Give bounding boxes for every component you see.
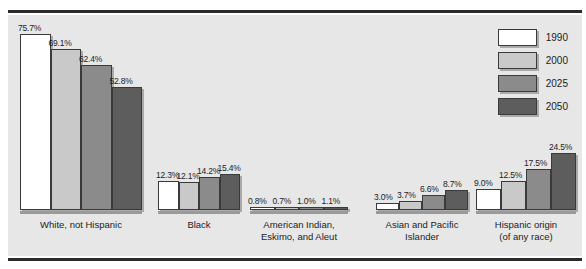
legend-item-1990[interactable]: 1990 — [498, 29, 568, 46]
legend-label: 2025 — [546, 78, 568, 89]
category-label-line: Islander — [386, 231, 459, 243]
bar-1990[interactable]: 9.0% — [476, 189, 501, 210]
bar-2050[interactable]: 1.1% — [324, 207, 349, 210]
bar-2025[interactable]: 6.6% — [422, 195, 445, 210]
bar-2000[interactable]: 3.7% — [399, 201, 422, 210]
bar-value-label: 3.7% — [397, 190, 416, 200]
legend-swatch — [498, 29, 537, 46]
category-label-line: (of any race) — [495, 231, 557, 243]
legend-label: 2000 — [546, 55, 568, 66]
category-label-line: American Indian, — [261, 219, 337, 231]
group-baseline — [158, 211, 240, 214]
bar-2025[interactable]: 17.5% — [526, 169, 551, 210]
bar-2050[interactable]: 24.5% — [551, 153, 576, 210]
bar-value-label: 62.4% — [79, 54, 102, 64]
bar-slot: 3.7% — [399, 34, 422, 210]
bar-group-bars: 0.8%0.7%1.0%1.1% — [250, 34, 348, 210]
legend-swatch — [498, 75, 537, 92]
chart-figure: 75.7%69.1%62.4%52.8%White, not Hispanic1… — [0, 0, 586, 269]
bar-2000[interactable]: 12.1% — [179, 182, 200, 210]
bar-slot: 0.7% — [275, 34, 300, 210]
legend-item-2025[interactable]: 2025 — [498, 75, 568, 92]
group-baseline — [250, 211, 348, 214]
bar-2025[interactable]: 14.2% — [199, 177, 220, 210]
bar-group: 75.7%69.1%62.4%52.8%White, not Hispanic — [20, 34, 142, 210]
category-label-line: Asian and Pacific — [386, 219, 459, 231]
group-baseline — [376, 211, 468, 214]
bar-slot: 15.4% — [220, 34, 241, 210]
bar-group: 12.3%12.1%14.2%15.4%Black — [158, 34, 240, 210]
bar-value-label: 3.0% — [374, 192, 393, 202]
legend-label: 2050 — [546, 101, 568, 112]
bar-slot: 69.1% — [51, 34, 82, 210]
bar-value-label: 8.7% — [443, 179, 462, 189]
bar-2050[interactable]: 8.7% — [445, 190, 468, 210]
chart-plot-panel: 75.7%69.1%62.4%52.8%White, not Hispanic1… — [8, 15, 582, 256]
legend-swatch — [498, 52, 537, 69]
category-label-line: Black — [187, 219, 210, 231]
bar-group-bars: 75.7%69.1%62.4%52.8% — [20, 34, 142, 210]
bar-slot: 14.2% — [199, 34, 220, 210]
bar-group: 3.0%3.7%6.6%8.7%Asian and PacificIslande… — [376, 34, 468, 210]
bar-2025[interactable]: 62.4% — [81, 65, 112, 210]
bar-value-label: 1.1% — [322, 196, 341, 206]
bar-slot: 12.1% — [179, 34, 200, 210]
bottom-rule — [8, 258, 582, 261]
bar-value-label: 1.0% — [297, 196, 316, 206]
bar-2000[interactable]: 69.1% — [51, 49, 82, 210]
bar-2050[interactable]: 15.4% — [220, 174, 241, 210]
group-baseline — [20, 211, 142, 214]
bar-value-label: 75.7% — [18, 23, 41, 33]
category-label: Hispanic origin(of any race) — [495, 219, 557, 243]
category-label-line: White, not Hispanic — [40, 219, 122, 231]
bar-slot: 1.1% — [324, 34, 349, 210]
bar-value-label: 6.6% — [420, 184, 439, 194]
category-label: White, not Hispanic — [40, 219, 122, 231]
bar-slot: 12.3% — [158, 34, 179, 210]
bar-1990[interactable]: 75.7% — [20, 34, 51, 210]
bar-slot: 8.7% — [445, 34, 468, 210]
bar-value-label: 17.5% — [524, 158, 547, 168]
bar-value-label: 12.5% — [499, 170, 522, 180]
bar-value-label: 0.7% — [273, 196, 292, 206]
top-rule — [8, 10, 582, 13]
bar-slot: 1.0% — [299, 34, 324, 210]
legend-item-2000[interactable]: 2000 — [498, 52, 568, 69]
bar-group-bars: 3.0%3.7%6.6%8.7% — [376, 34, 468, 210]
bar-slot: 75.7% — [20, 34, 51, 210]
group-baseline — [476, 211, 576, 214]
bar-group-bars: 12.3%12.1%14.2%15.4% — [158, 34, 240, 210]
bar-2025[interactable]: 1.0% — [299, 207, 324, 210]
legend-swatch — [498, 98, 537, 115]
bar-2000[interactable]: 12.5% — [501, 181, 526, 210]
bar-value-label: 24.5% — [549, 142, 572, 152]
legend-label: 1990 — [546, 32, 568, 43]
bar-2050[interactable]: 52.8% — [112, 87, 143, 210]
bar-value-label: 52.8% — [110, 76, 133, 86]
bar-1990[interactable]: 3.0% — [376, 203, 399, 210]
category-label-line: Eskimo, and Aleut — [261, 231, 337, 243]
bar-groups-container: 75.7%69.1%62.4%52.8%White, not Hispanic1… — [8, 15, 582, 256]
bar-value-label: 15.4% — [218, 163, 241, 173]
chart-legend: 1990200020252050 — [498, 29, 568, 115]
bar-group: 0.8%0.7%1.0%1.1%American Indian,Eskimo, … — [250, 34, 348, 210]
category-label: Black — [187, 219, 210, 231]
bar-value-label: 69.1% — [49, 38, 72, 48]
bar-value-label: 0.8% — [248, 196, 267, 206]
bar-1990[interactable]: 0.8% — [250, 207, 275, 210]
bar-slot: 3.0% — [376, 34, 399, 210]
legend-item-2050[interactable]: 2050 — [498, 98, 568, 115]
bar-slot: 62.4% — [81, 34, 112, 210]
category-label: Asian and PacificIslander — [386, 219, 459, 243]
bar-1990[interactable]: 12.3% — [158, 181, 179, 210]
category-label-line: Hispanic origin — [495, 219, 557, 231]
category-label: American Indian,Eskimo, and Aleut — [261, 219, 337, 243]
bar-2000[interactable]: 0.7% — [275, 207, 300, 210]
bar-slot: 52.8% — [112, 34, 143, 210]
bar-value-label: 9.0% — [474, 178, 493, 188]
bar-slot: 0.8% — [250, 34, 275, 210]
bar-slot: 6.6% — [422, 34, 445, 210]
